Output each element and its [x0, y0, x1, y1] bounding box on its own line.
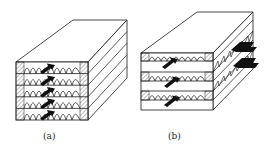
panel-a-block	[16, 20, 127, 121]
caption-b: (b)	[168, 131, 181, 141]
caption-a: (a)	[43, 131, 55, 141]
panel-b-block	[141, 12, 259, 110]
diagram-canvas	[0, 0, 268, 151]
